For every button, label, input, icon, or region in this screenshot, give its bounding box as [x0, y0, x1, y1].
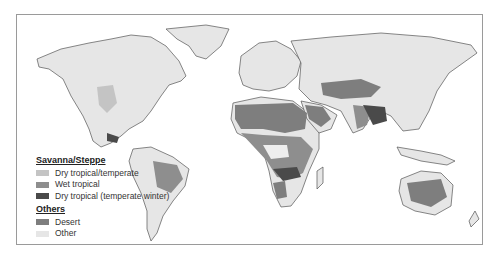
legend-item-other: Other: [36, 228, 169, 240]
swatch-desert: [36, 219, 49, 225]
legend-item-dry-tropical-winter: Dry tropical (temperate winter): [36, 191, 169, 203]
legend-item-dry-tropical: Dry tropical/temperate: [36, 168, 169, 180]
legend-title-others: Others: [36, 204, 169, 216]
legend-title-savanna: Savanna/Steppe: [36, 155, 169, 167]
europe: [239, 41, 301, 91]
indonesia: [397, 147, 455, 165]
swatch-other: [36, 231, 49, 237]
map-legend: Savanna/Steppe Dry tropical/temperate We…: [36, 155, 169, 240]
madagascar: [317, 167, 323, 189]
swatch-wet-tropical: [36, 182, 49, 188]
sahara-desert: [235, 103, 307, 133]
swatch-dry-tropical-winter: [36, 193, 49, 199]
new-zealand: [469, 211, 479, 227]
swatch-dry-tropical: [36, 170, 49, 176]
legend-item-desert: Desert: [36, 217, 169, 229]
kalahari-desert: [273, 181, 287, 199]
legend-item-wet-tropical: Wet tropical: [36, 179, 169, 191]
greenland: [166, 25, 229, 59]
